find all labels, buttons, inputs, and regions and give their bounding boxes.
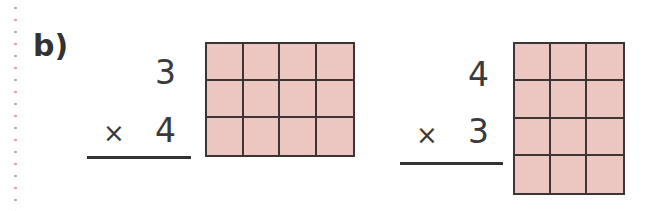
multiply-operator: × (416, 122, 438, 148)
grid-cell (587, 81, 623, 118)
grid-cell (317, 118, 354, 155)
grid-cell (207, 118, 244, 155)
grid-cell (515, 156, 551, 193)
grid-cell (587, 44, 623, 81)
grid-cell (244, 118, 281, 155)
multiplier: 4 (155, 114, 176, 147)
multiplicand: 4 (468, 58, 489, 91)
grid-cell (551, 44, 587, 81)
grid-cell (280, 118, 317, 155)
margin-dotted-line (14, 2, 17, 211)
grid-cell (280, 81, 317, 118)
answer-line (87, 156, 191, 159)
grid-cell (317, 44, 354, 81)
section-label: b) (33, 28, 68, 63)
grid-cell (551, 119, 587, 156)
grid-cell (317, 81, 354, 118)
grid-cell (551, 156, 587, 193)
grid-cell (515, 81, 551, 118)
array-grid-3x4 (513, 42, 625, 195)
grid-cell (551, 81, 587, 118)
grid-cell (207, 44, 244, 81)
grid-cell (515, 44, 551, 81)
grid-cell (244, 44, 281, 81)
grid-cell (244, 81, 281, 118)
array-grid-4x3 (205, 42, 355, 157)
answer-line (400, 162, 503, 165)
multiplier: 3 (468, 115, 489, 148)
grid-cell (207, 81, 244, 118)
grid-cell (515, 119, 551, 156)
multiplicand: 3 (155, 56, 176, 89)
grid-cell (587, 119, 623, 156)
grid-cell (280, 44, 317, 81)
multiply-operator: × (103, 120, 125, 146)
grid-cell (587, 156, 623, 193)
